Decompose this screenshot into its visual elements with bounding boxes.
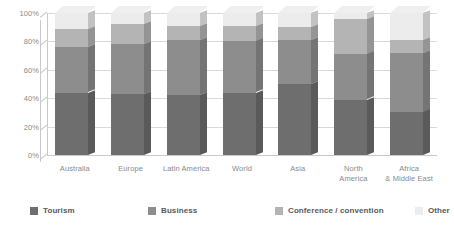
y-axis-tick-20: 20%	[24, 122, 39, 131]
segment-conference-convention	[278, 27, 311, 40]
legend-label: Other	[428, 206, 450, 215]
legend-swatch-icon	[415, 207, 423, 215]
bar-asia	[278, 13, 311, 155]
segment-business	[390, 53, 423, 113]
segment-side-face	[144, 41, 151, 94]
bar-africa-middle-east	[390, 13, 423, 155]
x-axis-label-north-america: North America	[329, 164, 377, 183]
segment-other	[111, 13, 144, 24]
segment-other	[167, 13, 200, 26]
segment-side-face	[200, 37, 207, 95]
y-axis-tick-80: 80%	[24, 37, 39, 46]
legend-item-other[interactable]: Other	[415, 206, 450, 215]
x-axis-line	[47, 155, 437, 156]
x-axis-labels: AustraliaEuropeLatin AmericaWorldAsiaNor…	[47, 160, 437, 200]
bar-latin-america	[167, 13, 200, 155]
segment-side-face	[367, 51, 374, 99]
segment-side-face	[423, 50, 430, 112]
segment-conference-convention	[111, 24, 144, 44]
segment-side-face	[200, 93, 207, 155]
segment-side-face	[256, 90, 263, 155]
bar-series-container	[47, 13, 437, 155]
y-axis-tick-0: 0%	[28, 151, 39, 160]
segment-tourism	[55, 93, 88, 155]
y-axis-line-front	[47, 13, 48, 155]
segment-other	[390, 13, 423, 40]
segment-business	[55, 47, 88, 92]
segment-conference-convention	[223, 26, 256, 42]
x-axis-label-europe: Europe	[107, 164, 155, 174]
x-axis-label-latin-america: Latin America	[162, 164, 210, 174]
segment-business	[334, 54, 367, 99]
segment-business	[111, 44, 144, 94]
legend-label: Business	[161, 206, 197, 215]
legend-label: Tourism	[43, 206, 75, 215]
segment-other	[55, 13, 88, 29]
legend-swatch-icon	[30, 207, 38, 215]
segment-side-face	[88, 44, 95, 92]
legend-label: Conference / convention	[288, 206, 384, 215]
segment-side-face	[367, 97, 374, 155]
segment-business	[167, 40, 200, 95]
legend-swatch-icon	[148, 207, 156, 215]
segment-conference-convention	[334, 19, 367, 55]
segment-conference-convention	[55, 29, 88, 47]
chart-legend: TourismBusinessConference / conventionOt…	[30, 206, 440, 222]
segment-side-face	[88, 90, 95, 155]
segment-tourism	[334, 100, 367, 155]
stacked-bar-chart: 0%20%40%60%80%100% AustraliaEuropeLatin …	[0, 0, 454, 235]
segment-tourism	[167, 95, 200, 155]
segment-side-face	[256, 39, 263, 93]
bar-australia	[55, 13, 88, 155]
segment-other	[223, 13, 256, 26]
legend-swatch-icon	[275, 207, 283, 215]
bar-north-america	[334, 13, 367, 155]
segment-side-face	[144, 91, 151, 155]
segment-business	[278, 40, 311, 84]
segment-side-face	[423, 110, 430, 155]
segment-tourism	[223, 93, 256, 155]
segment-conference-convention	[167, 26, 200, 40]
y-axis-tick-40: 40%	[24, 94, 39, 103]
segment-tourism	[111, 94, 144, 155]
segment-conference-convention	[390, 40, 423, 53]
segment-side-face	[311, 37, 318, 84]
bar-world	[223, 13, 256, 155]
plot-area	[47, 13, 437, 155]
legend-item-tourism[interactable]: Tourism	[30, 206, 75, 215]
y-axis-tick-60: 60%	[24, 65, 39, 74]
segment-tourism	[278, 84, 311, 155]
segment-side-face	[423, 10, 430, 40]
segment-tourism	[390, 112, 423, 155]
y-axis-line-back	[40, 20, 41, 162]
y-axis-tick-100: 100%	[19, 9, 39, 18]
x-axis-label-asia: Asia	[274, 164, 322, 174]
segment-side-face	[367, 16, 374, 54]
segment-business	[223, 41, 256, 92]
segment-side-face	[311, 81, 318, 155]
x-axis-label-australia: Australia	[51, 164, 99, 174]
legend-item-business[interactable]: Business	[148, 206, 197, 215]
x-axis-label-africa-middle-east: Africa & Middle East	[385, 164, 433, 183]
segment-other	[278, 13, 311, 27]
legend-item-conference-convention[interactable]: Conference / convention	[275, 206, 384, 215]
x-axis-label-world: World	[218, 164, 266, 174]
bar-europe	[111, 13, 144, 155]
